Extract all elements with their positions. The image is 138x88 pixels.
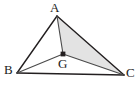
vertex-label-a: A <box>50 1 59 14</box>
geometry-figure: A B C G <box>0 0 138 88</box>
vertex-label-c: C <box>126 66 135 79</box>
segment-bc <box>17 73 124 75</box>
vertex-label-g: G <box>58 57 67 70</box>
geometry-canvas <box>0 0 138 88</box>
vertex-label-b: B <box>4 63 13 76</box>
